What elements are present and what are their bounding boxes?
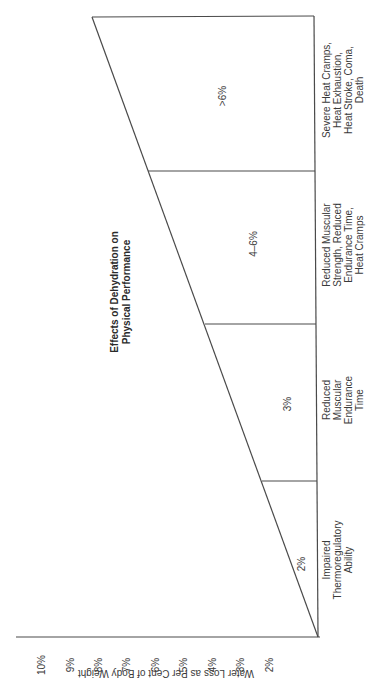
svg-text:Severe Heat Cramps,: Severe Heat Cramps, (321, 42, 332, 138)
svg-text:Time: Time (354, 389, 365, 411)
segment-label-2pct: 2% (296, 557, 307, 572)
svg-text:Heat Exhaustion,: Heat Exhaustion, (332, 52, 343, 128)
svg-text:Effects of Dehydration on: Effects of Dehydration on (109, 231, 120, 353)
tick-2: 2% (264, 658, 275, 673)
tick-10: 10% (36, 655, 47, 675)
effect-label-3pct: Reduced Muscular Endurance Time (321, 375, 365, 424)
svg-text:Reduced Muscular: Reduced Muscular (321, 203, 332, 287)
segment-label-over6pct: >6% (217, 86, 228, 106)
svg-text:Physical Performance: Physical Performance (121, 239, 132, 344)
svg-text:Ability: Ability (343, 547, 354, 574)
segment-label-4-6pct: 4–6% (248, 231, 259, 257)
right-edge-line (314, 16, 318, 637)
chart-title: Effects of Dehydration on Physical Perfo… (109, 231, 132, 353)
effect-label-4-6pct: Reduced Muscular Strength, Reduced Endur… (321, 203, 365, 287)
effect-label-2pct: Impaired Thermoregulatory Ability (321, 521, 354, 600)
svg-text:Impaired: Impaired (321, 541, 332, 580)
segment-label-3pct: 3% (282, 397, 293, 412)
effect-label-over6pct: Severe Heat Cramps, Heat Exhaustion, Hea… (321, 42, 365, 138)
svg-text:Endurance: Endurance (343, 375, 354, 424)
svg-text:Death: Death (354, 77, 365, 104)
y-axis-label: Water Loss as Per Cent of Body Weight (78, 668, 254, 679)
top-edge-line (92, 16, 314, 17)
svg-text:Reduced: Reduced (321, 380, 332, 420)
svg-text:Heat Stroke, Coma,: Heat Stroke, Coma, (343, 46, 354, 134)
svg-text:Muscular: Muscular (332, 379, 343, 420)
svg-text:Thermoregulatory: Thermoregulatory (332, 521, 343, 600)
svg-text:Heat Cramps: Heat Cramps (354, 216, 365, 275)
svg-text:Endurance Time,: Endurance Time, (343, 207, 354, 283)
dehydration-chart: Effects of Dehydration on Physical Perfo… (0, 0, 374, 687)
tick-9: 9% (65, 658, 76, 673)
svg-text:Strength, Reduced: Strength, Reduced (332, 203, 343, 286)
